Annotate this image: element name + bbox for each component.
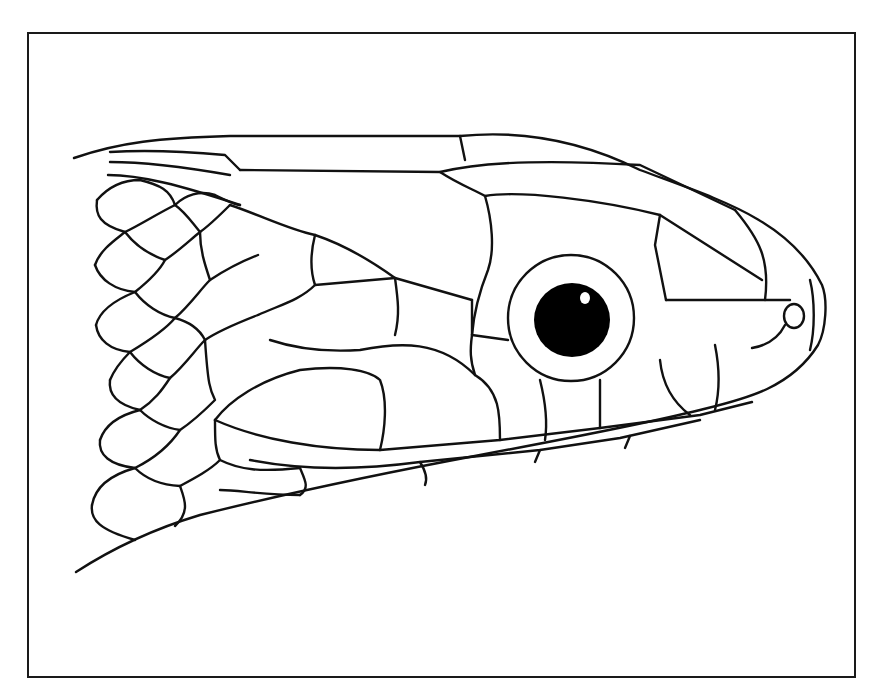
neck-scales xyxy=(92,151,300,540)
eye-highlight xyxy=(580,292,590,304)
snake-head-drawing xyxy=(0,0,886,700)
pupil xyxy=(534,283,610,357)
nostril xyxy=(784,304,804,328)
